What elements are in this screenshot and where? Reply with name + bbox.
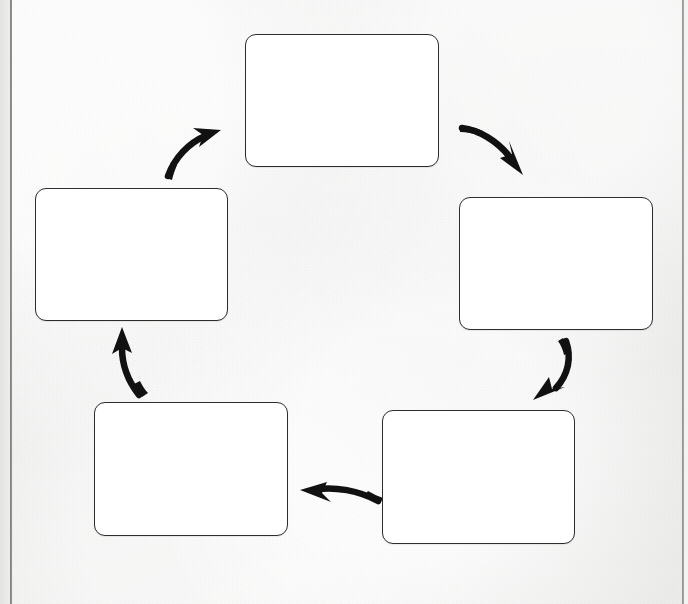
arrow-lower-left-to-upper-left-icon <box>112 327 148 397</box>
cycle-node-top-label <box>246 35 438 166</box>
cycle-node-upper-right-label <box>460 198 652 329</box>
cycle-node-lower-left[interactable] <box>94 402 288 536</box>
arrow-upper-left-to-top-icon <box>166 128 221 180</box>
right-page-edge-line <box>682 0 684 604</box>
left-page-edge-line <box>10 0 12 604</box>
arrow-lower-right-to-lower-left-icon <box>300 482 383 504</box>
cycle-node-top[interactable] <box>245 34 439 167</box>
cycle-node-lower-right[interactable] <box>382 410 575 544</box>
arrow-upper-right-to-lower-right-icon <box>533 338 570 400</box>
cycle-node-lower-right-label <box>383 411 574 543</box>
cycle-node-lower-left-label <box>95 403 287 535</box>
cycle-node-upper-right[interactable] <box>459 197 653 330</box>
left-page-margin <box>0 0 10 604</box>
cycle-node-upper-left[interactable] <box>35 188 228 321</box>
cycle-node-upper-left-label <box>36 189 227 320</box>
diagram-page <box>0 0 688 604</box>
right-page-margin <box>684 0 688 604</box>
arrow-top-to-upper-right-icon <box>460 126 523 175</box>
